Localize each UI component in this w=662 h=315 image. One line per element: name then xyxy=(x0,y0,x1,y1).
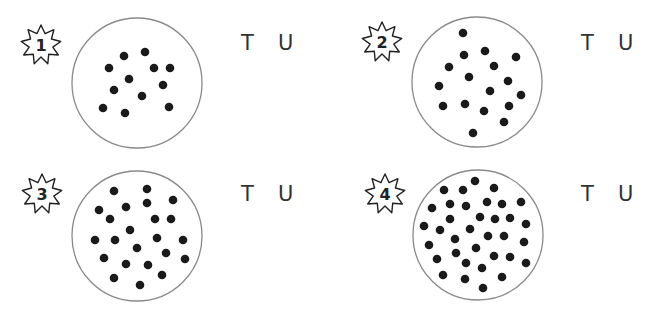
dot xyxy=(522,259,531,268)
panel-1: 1 xyxy=(21,18,202,148)
starburst-badge-icon: 1 xyxy=(21,25,60,64)
tens-label: T xyxy=(241,182,254,206)
dot xyxy=(461,275,470,284)
panel-number: 3 xyxy=(36,185,47,204)
dot xyxy=(440,186,449,195)
units-label: U xyxy=(278,182,293,206)
dot xyxy=(506,214,515,223)
dot xyxy=(479,284,488,293)
dot xyxy=(105,64,114,73)
dot xyxy=(150,64,159,73)
dot xyxy=(459,29,468,38)
dot xyxy=(491,215,500,224)
dot xyxy=(498,200,507,209)
dot xyxy=(504,77,513,86)
dot xyxy=(472,244,481,253)
dot xyxy=(121,109,130,118)
dot xyxy=(439,102,448,111)
dot xyxy=(471,177,480,186)
dot xyxy=(166,64,175,73)
counting-circle xyxy=(412,17,542,147)
dot xyxy=(141,48,150,57)
dot xyxy=(143,185,152,194)
dot xyxy=(138,92,147,101)
dot xyxy=(162,249,171,258)
dot-group xyxy=(99,48,175,118)
starburst-badge-icon: 4 xyxy=(365,174,404,213)
dot xyxy=(159,81,168,90)
dot xyxy=(461,100,470,109)
panel-2: 2 xyxy=(362,17,542,147)
worksheet-canvas: 1234 xyxy=(0,0,662,315)
dot xyxy=(490,184,499,193)
dot xyxy=(505,102,514,111)
tens-label: T xyxy=(241,31,254,55)
dot xyxy=(500,232,509,241)
dot xyxy=(465,73,474,82)
dot xyxy=(143,199,152,208)
dot xyxy=(459,186,468,195)
dot xyxy=(125,75,134,84)
dot xyxy=(110,86,119,95)
dot xyxy=(169,196,178,205)
dot xyxy=(111,236,120,245)
units-label: U xyxy=(618,31,633,55)
dot xyxy=(522,220,531,229)
dot xyxy=(428,204,437,213)
units-label: U xyxy=(618,182,633,206)
dot xyxy=(446,200,455,209)
dot xyxy=(484,232,493,241)
dot xyxy=(480,107,489,116)
dot xyxy=(460,51,469,60)
dot-group xyxy=(420,177,531,293)
dot xyxy=(433,255,442,264)
dot xyxy=(110,274,119,283)
panel-number: 2 xyxy=(376,33,387,52)
dot xyxy=(517,91,526,100)
dot xyxy=(512,53,521,62)
dot xyxy=(490,62,499,71)
dot xyxy=(167,215,176,224)
dot xyxy=(126,226,135,235)
dot-group xyxy=(91,185,190,290)
panel-number: 4 xyxy=(379,185,390,204)
dot xyxy=(136,281,145,290)
dot xyxy=(158,271,167,280)
dot xyxy=(151,215,160,224)
dot xyxy=(91,236,100,245)
dot xyxy=(490,252,499,261)
dot xyxy=(486,87,495,96)
dot xyxy=(483,198,492,207)
dot xyxy=(181,255,190,264)
dot xyxy=(498,273,507,282)
dot xyxy=(476,213,485,222)
panel-4: 4 xyxy=(365,170,543,300)
dot xyxy=(520,238,529,247)
dot xyxy=(100,254,109,263)
dot xyxy=(179,236,188,245)
dot xyxy=(106,215,115,224)
dot xyxy=(95,206,104,215)
units-label: U xyxy=(278,31,293,55)
counting-circle xyxy=(72,18,202,148)
dot xyxy=(425,241,434,250)
dot xyxy=(506,253,515,262)
panel-number: 1 xyxy=(35,36,46,55)
dot xyxy=(446,215,455,224)
dot xyxy=(122,260,131,269)
counting-circle xyxy=(413,170,543,300)
dot xyxy=(469,129,478,138)
dot xyxy=(99,104,108,113)
starburst-badge-icon: 2 xyxy=(362,22,401,61)
dot xyxy=(478,264,487,273)
dot xyxy=(452,249,461,258)
dot xyxy=(436,226,445,235)
dot xyxy=(445,63,454,72)
dot xyxy=(420,222,429,231)
tens-label: T xyxy=(581,182,594,206)
dot xyxy=(110,187,119,196)
dot xyxy=(133,244,142,253)
dot xyxy=(439,271,448,280)
dot xyxy=(462,259,471,268)
dot xyxy=(451,235,460,244)
